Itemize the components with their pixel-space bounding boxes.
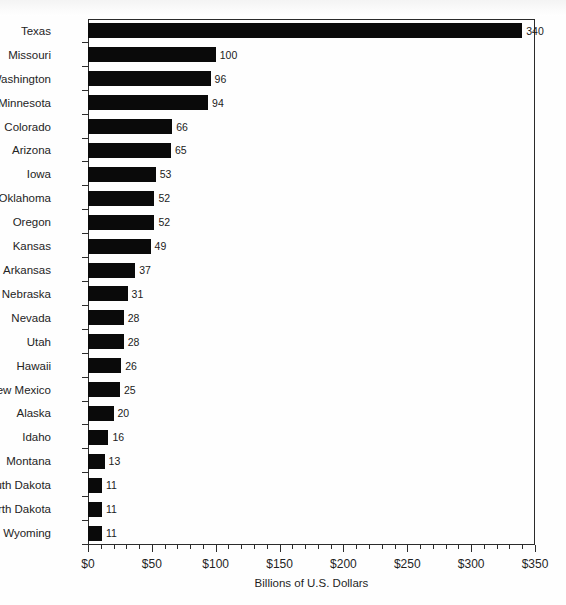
bar-row: Kansas49: [88, 234, 535, 258]
bar-row: Minnesota94: [88, 91, 535, 115]
bar-row: North Dakota11: [88, 497, 535, 521]
bar-value-label: 37: [139, 262, 151, 278]
bar-value-label: 96: [215, 71, 227, 87]
bar: [88, 334, 124, 349]
x-axis-minor-tick: [305, 545, 306, 549]
bar-row: Colorado66: [88, 115, 535, 139]
category-label: Oregon: [0, 214, 51, 230]
bar-row: Arizona65: [88, 139, 535, 163]
x-axis-tick-label: $0: [81, 556, 94, 572]
bar-value-label: 13: [109, 453, 121, 469]
bar-row: Wyoming11: [88, 521, 535, 545]
bar-value-label: 65: [175, 142, 187, 158]
x-axis-major-tick: [216, 545, 217, 552]
bar-rows: Texas340Missouri100Washington96Minnesota…: [88, 19, 535, 545]
bar: [88, 191, 154, 206]
bar: [88, 310, 124, 325]
bar: [88, 286, 128, 301]
x-axis-minor-tick: [433, 545, 434, 549]
x-axis-minor-tick: [126, 545, 127, 549]
bar-row: Montana13: [88, 449, 535, 473]
x-axis-minor-tick: [190, 545, 191, 549]
x-axis-minor-tick: [139, 545, 140, 549]
bar-value-label: 31: [132, 286, 144, 302]
bar-value-label: 66: [176, 119, 188, 135]
category-label: Idaho: [0, 429, 51, 445]
x-axis-minor-tick: [177, 545, 178, 549]
bar: [88, 406, 114, 421]
bar-row: Nebraska31: [88, 282, 535, 306]
bar-row: South Dakota11: [88, 473, 535, 497]
x-axis-tick-label: $100: [202, 556, 229, 572]
bar: [88, 47, 216, 62]
category-label: Arizona: [0, 142, 51, 158]
bar-value-label: 16: [112, 429, 124, 445]
bar-row: New Mexico25: [88, 378, 535, 402]
bar-value-label: 49: [155, 238, 167, 254]
category-label: Nevada: [0, 310, 51, 326]
x-axis-tick-label: $150: [266, 556, 293, 572]
category-label: Hawaii: [0, 358, 51, 374]
bar: [88, 143, 171, 158]
x-axis-tick-labels: $0$50$100$150$200$250$300$350: [0, 556, 566, 574]
category-label: North Dakota: [0, 501, 51, 517]
bar-value-label: 28: [128, 334, 140, 350]
bar-value-label: 340: [526, 23, 544, 39]
bar-value-label: 26: [125, 358, 137, 374]
category-label: Texas: [0, 23, 51, 39]
bar: [88, 263, 135, 278]
category-label: Colorado: [0, 119, 51, 135]
x-axis-minor-tick: [318, 545, 319, 549]
bar: [88, 71, 211, 86]
bar: [88, 358, 121, 373]
x-axis-tick-label: $250: [394, 556, 421, 572]
x-axis-minor-tick: [241, 545, 242, 549]
x-axis-minor-tick: [114, 545, 115, 549]
x-axis-minor-tick: [254, 545, 255, 549]
category-label: Utah: [0, 334, 51, 350]
x-axis-major-tick: [280, 545, 281, 552]
x-axis-minor-tick: [382, 545, 383, 549]
category-label: South Dakota: [0, 477, 51, 493]
x-axis-minor-tick: [203, 545, 204, 549]
category-label: Nebraska: [0, 286, 51, 302]
bar-row: Hawaii26: [88, 354, 535, 378]
bar-row: Texas340: [88, 19, 535, 43]
bar-row: Missouri100: [88, 43, 535, 67]
bar: [88, 119, 172, 134]
bar: [88, 95, 208, 110]
category-label: Minnesota: [0, 95, 51, 111]
x-axis-minor-tick: [522, 545, 523, 549]
bar: [88, 502, 102, 517]
category-label: Arkansas: [0, 262, 51, 278]
bar-value-label: 11: [106, 477, 117, 493]
category-label: Wyoming: [0, 525, 51, 541]
bar-value-label: 20: [118, 405, 130, 421]
bar-row: Arkansas37: [88, 258, 535, 282]
bar-value-label: 52: [158, 214, 170, 230]
category-label: Kansas: [0, 238, 51, 254]
x-axis-minor-tick: [446, 545, 447, 549]
category-label: Washington: [0, 71, 51, 87]
scan-artifact: [0, 0, 566, 16]
bar-row: Washington96: [88, 67, 535, 91]
bar-value-label: 25: [124, 382, 136, 398]
x-axis-tick-label: $300: [458, 556, 485, 572]
x-axis-major-tick: [152, 545, 153, 552]
bar: [88, 167, 156, 182]
bar-row: Nevada28: [88, 306, 535, 330]
bar-value-label: 11: [106, 525, 117, 541]
x-axis-major-tick: [407, 545, 408, 552]
x-axis-minor-tick: [292, 545, 293, 549]
x-axis-minor-tick: [165, 545, 166, 549]
x-axis-major-tick: [535, 545, 536, 552]
bar: [88, 454, 105, 469]
x-axis-minor-tick: [420, 545, 421, 549]
x-axis-minor-tick: [228, 545, 229, 549]
category-label: Missouri: [0, 47, 51, 63]
bar: [88, 526, 102, 541]
x-axis-minor-tick: [484, 545, 485, 549]
x-axis-minor-tick: [509, 545, 510, 549]
bar-value-label: 28: [128, 310, 140, 326]
bar-row: Iowa53: [88, 162, 535, 186]
